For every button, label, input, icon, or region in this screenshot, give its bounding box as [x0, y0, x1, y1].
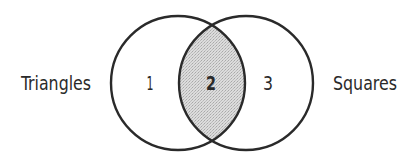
set-label-squares: Squares: [333, 72, 397, 94]
region-label-1: 1: [147, 72, 154, 94]
venn-diagram: Triangles Squares 1 2 3: [0, 0, 409, 156]
region-label-2: 2: [206, 72, 216, 94]
region-label-3: 3: [263, 72, 273, 94]
set-label-triangles: Triangles: [20, 72, 91, 94]
